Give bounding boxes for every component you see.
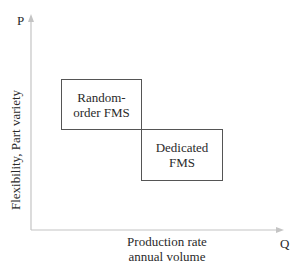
random-order-fms-box: Random- order FMS [61,79,142,130]
x-axis-letter: Q [280,236,289,252]
x-axis-label-line2: annual volume [127,249,207,264]
random-order-fms-line2: order FMS [73,105,130,120]
x-axis-arrow-icon [276,227,284,233]
y-axis-label: Flexibility, Part variety [8,90,24,210]
y-axis-letter: P [17,13,24,29]
random-order-fms-line1: Random- [77,90,125,105]
dedicated-fms-box: Dedicated FMS [141,129,223,181]
x-axis-label-line1: Production rate [127,234,207,249]
dedicated-fms-line1: Dedicated [156,140,209,155]
y-axis-arrow-icon [28,14,34,22]
dedicated-fms-line2: FMS [169,155,195,170]
x-axis-label: Production rate annual volume [127,234,207,264]
